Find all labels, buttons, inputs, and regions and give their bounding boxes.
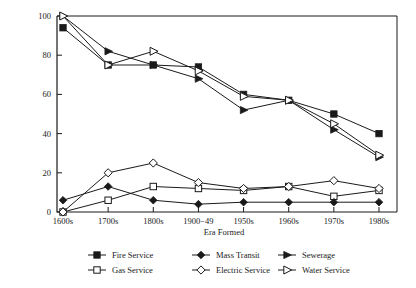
data-point-marker — [94, 252, 100, 258]
y-axis-tick-label: 60 — [43, 89, 52, 99]
series-path — [63, 16, 379, 157]
series-container — [59, 12, 384, 216]
data-point-marker — [104, 183, 112, 191]
line-chart: 020406080100 1600s1700s1800s1900−491950s… — [0, 0, 416, 288]
legend-item-sewerage[interactable]: Sewerage — [278, 250, 335, 260]
legend-item-water-service[interactable]: Water Service — [278, 265, 350, 275]
legend-label: Gas Service — [112, 265, 153, 275]
data-point-marker — [149, 159, 157, 167]
series-path — [63, 16, 379, 155]
data-point-marker — [195, 200, 203, 208]
y-axis-tick-label: 40 — [43, 129, 52, 139]
x-axis-title-group: Era Formed — [204, 227, 245, 237]
series-sewerage — [60, 12, 384, 160]
legend-item-fire-service[interactable]: Fire Service — [88, 250, 154, 260]
x-axis-tick-label: 1700s — [98, 216, 118, 226]
x-axis-tick-label: 1970s — [324, 216, 344, 226]
data-point-marker — [150, 47, 158, 55]
x-axis-tick-label: 1600s — [53, 216, 73, 226]
data-point-marker — [197, 251, 205, 259]
data-point-marker — [150, 183, 156, 189]
legend-item-electric-service[interactable]: Electric Service — [192, 265, 270, 275]
x-axis-title: Era Formed — [204, 227, 245, 237]
legend-label: Water Service — [302, 265, 350, 275]
y-axis-ticks: 020406080100 — [38, 11, 62, 217]
data-point-marker — [376, 130, 382, 136]
data-point-marker — [375, 198, 383, 206]
x-axis-ticks: 1600s1700s1800s1900−491950s1960s1970s198… — [53, 207, 389, 226]
data-point-marker — [105, 197, 111, 203]
data-point-marker — [94, 267, 100, 273]
chart-legend: Fire ServiceMass TransitSewerageGas Serv… — [88, 250, 350, 275]
y-axis-tick-label: 0 — [47, 207, 51, 217]
series-path — [63, 28, 379, 134]
legend-label: Mass Transit — [216, 250, 260, 260]
legend-label: Electric Service — [216, 265, 270, 275]
legend-label: Fire Service — [112, 250, 154, 260]
data-point-marker — [284, 266, 292, 274]
legend-label: Sewerage — [302, 250, 335, 260]
data-point-marker — [240, 198, 248, 206]
chart-canvas: 020406080100 1600s1700s1800s1900−491950s… — [0, 0, 416, 288]
data-point-marker — [59, 196, 67, 204]
y-axis-tick-label: 100 — [38, 11, 51, 21]
data-point-marker — [330, 177, 338, 185]
data-point-marker — [149, 196, 157, 204]
series-water-service — [60, 12, 384, 159]
series-fire-service — [60, 25, 382, 137]
data-point-marker — [285, 198, 293, 206]
x-axis-tick-label: 1980s — [369, 216, 389, 226]
x-axis-tick-label: 1800s — [143, 216, 163, 226]
legend-item-mass-transit[interactable]: Mass Transit — [192, 250, 260, 260]
legend-item-gas-service[interactable]: Gas Service — [88, 265, 153, 275]
data-point-marker — [60, 25, 66, 31]
y-axis-tick-label: 80 — [43, 50, 52, 60]
x-axis-tick-label: 1960s — [279, 216, 299, 226]
data-point-marker — [284, 251, 292, 258]
data-point-marker — [240, 106, 248, 113]
data-point-marker — [331, 111, 337, 117]
x-axis-tick-label: 1950s — [233, 216, 253, 226]
y-axis-tick-label: 20 — [43, 168, 52, 178]
x-axis-tick-label: 1900−49 — [183, 216, 213, 226]
data-point-marker — [197, 266, 205, 274]
data-point-marker — [105, 48, 113, 55]
